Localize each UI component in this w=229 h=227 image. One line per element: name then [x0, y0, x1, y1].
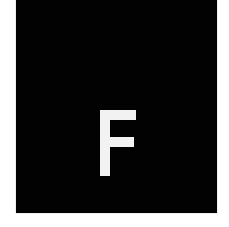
page-canvas: F [0, 0, 229, 227]
letter-f-icon: F [16, 0, 217, 213]
letter-tile: F [16, 0, 217, 213]
letter-glyph: F [16, 0, 217, 213]
